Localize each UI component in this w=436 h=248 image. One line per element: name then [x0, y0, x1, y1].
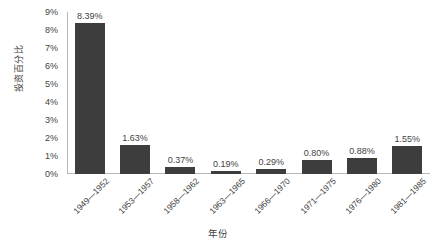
y-axis-tick-label: 3% [45, 115, 58, 125]
plot-area: 8.39%1.63%0.37%0.19%0.29%0.80%0.88%1.55% [67, 12, 430, 174]
y-axis-tick-label: 9% [45, 7, 58, 17]
y-axis-tick-label: 2% [45, 133, 58, 143]
bar-chart: 投资百分比 0%1%2%3%4%5%6%7%8%9% 8.39%1.63%0.3… [0, 0, 436, 248]
bar-slot: 8.39% [67, 12, 112, 174]
x-axis-tick-label: 1949—1952 [61, 176, 110, 225]
bar-slot: 0.88% [339, 12, 384, 174]
x-axis-tick-labels: 1949—19521953—19571958—19621963—19651966… [67, 176, 430, 220]
bar[interactable] [256, 169, 286, 174]
bar-value-label: 0.29% [258, 157, 284, 167]
bar-value-label: 1.55% [395, 134, 421, 144]
bar-value-label: 8.39% [77, 11, 103, 21]
y-axis-tick-label: 7% [45, 43, 58, 53]
bar-value-label: 0.37% [168, 155, 194, 165]
bar[interactable] [165, 167, 195, 174]
bar-slot: 0.29% [249, 12, 294, 174]
bar-slot: 0.37% [158, 12, 203, 174]
y-axis-tick-label: 8% [45, 25, 58, 35]
x-axis-tick-label: 1981—1985 [379, 176, 428, 225]
y-axis-tick-label: 4% [45, 97, 58, 107]
bar-value-label: 1.63% [122, 133, 148, 143]
y-axis-tick-label: 5% [45, 79, 58, 89]
bar[interactable] [302, 160, 332, 174]
bar-slot: 0.19% [203, 12, 248, 174]
y-axis-tick-label: 1% [45, 151, 58, 161]
y-axis-title: 投资百分比 [12, 14, 25, 124]
y-axis-tick-label: 0% [45, 169, 58, 179]
y-axis-tick-labels: 0%1%2%3%4%5%6%7%8%9% [30, 12, 62, 174]
x-axis-tick-label: 1963—1965 [197, 176, 246, 225]
bar-value-label: 0.19% [213, 159, 239, 169]
bar[interactable] [211, 171, 241, 174]
x-axis-tick-label: 1971—1975 [288, 176, 337, 225]
x-axis-tick-label: 1966—1970 [243, 176, 292, 225]
bar-series: 8.39%1.63%0.37%0.19%0.29%0.80%0.88%1.55% [67, 12, 430, 174]
bar[interactable] [75, 23, 105, 174]
bar-slot: 1.55% [385, 12, 430, 174]
y-axis-tick-label: 6% [45, 61, 58, 71]
bar[interactable] [347, 158, 377, 174]
bar[interactable] [120, 145, 150, 174]
x-axis-tick-label: 1953—1957 [107, 176, 156, 225]
x-axis-tick-label: 1958—1962 [152, 176, 201, 225]
bar[interactable] [392, 146, 422, 174]
bar-value-label: 0.80% [304, 148, 330, 158]
bar-slot: 0.80% [294, 12, 339, 174]
x-axis-tick-label: 1976—1980 [334, 176, 383, 225]
bar-value-label: 0.88% [349, 146, 375, 156]
x-axis-title: 年份 [0, 226, 436, 240]
bar-slot: 1.63% [112, 12, 157, 174]
